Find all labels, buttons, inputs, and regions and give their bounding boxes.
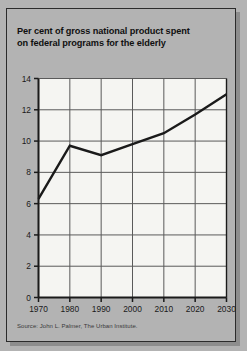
y-axis-tick-label: 0 <box>26 293 31 303</box>
x-axis-tick-label: 1990 <box>92 304 111 314</box>
y-axis-tick-label: 8 <box>26 167 31 177</box>
line-chart-plot: 024681012141970198019902000201020202030 <box>0 0 247 351</box>
x-axis-tick-label: 2010 <box>155 304 174 314</box>
y-axis-tick-label: 4 <box>26 230 31 240</box>
y-axis-tick-label: 6 <box>26 199 31 209</box>
x-axis-tick-label: 2020 <box>186 304 205 314</box>
source-note: Source: John L. Palmer, The Urban Instit… <box>17 323 138 329</box>
y-axis-tick-label: 14 <box>22 74 32 84</box>
x-axis-tick-label: 1980 <box>61 304 80 314</box>
y-axis-tick-label: 10 <box>22 136 32 146</box>
x-axis-tick-label: 2030 <box>217 304 236 314</box>
x-axis-tick-label: 1970 <box>29 304 48 314</box>
x-axis-tick-label: 2000 <box>123 304 142 314</box>
y-axis-tick-label: 12 <box>22 105 32 115</box>
chart-figure: Per cent of gross national product spent… <box>0 0 247 351</box>
y-axis-tick-label: 2 <box>26 261 31 271</box>
